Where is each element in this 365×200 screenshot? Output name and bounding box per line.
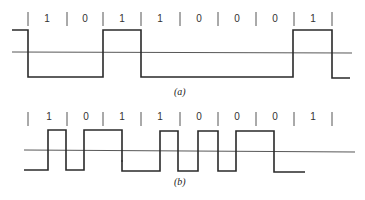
- baseline-a: [12, 52, 352, 53]
- caption-a: (a): [174, 86, 186, 97]
- bit-label: 0: [196, 111, 202, 122]
- bit-label: 1: [157, 111, 163, 122]
- bit-boundary-ticks-a: [28, 12, 332, 26]
- bit-boundary-ticks-b: [28, 112, 332, 126]
- bit-label: 1: [310, 111, 316, 122]
- bit-label: 0: [83, 111, 89, 122]
- stray-dot: [121, 160, 123, 162]
- panel-b: 1 0 1 1 0 0 0 1: [24, 111, 355, 172]
- bit-label: 0: [272, 111, 278, 122]
- bit-label: 1: [44, 13, 50, 24]
- signal-waveform-a: [12, 30, 350, 78]
- bit-label: 0: [234, 13, 240, 24]
- bit-label: 1: [119, 111, 125, 122]
- waveform-diagram: 1 0 1 1 0 0 0 1 1 0 1 1 0: [0, 0, 365, 200]
- bit-label: 1: [46, 111, 52, 122]
- bit-label: 0: [234, 111, 240, 122]
- bit-labels-b: 1 0 1 1 0 0 0 1: [46, 111, 316, 122]
- bit-label: 0: [196, 13, 202, 24]
- panel-a: 1 0 1 1 0 0 0 1: [12, 12, 352, 78]
- bit-label: 1: [157, 13, 163, 24]
- bit-label: 1: [310, 13, 316, 24]
- bit-label: 0: [272, 13, 278, 24]
- caption-b: (b): [174, 176, 186, 187]
- bit-label: 1: [119, 13, 125, 24]
- bit-label: 0: [82, 13, 88, 24]
- baseline-b: [24, 150, 355, 152]
